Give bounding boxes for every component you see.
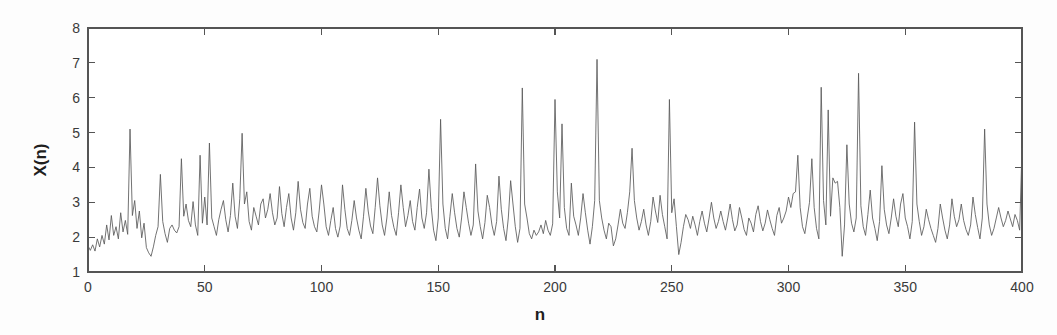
line-chart: 050100150200250300350400 12345678 X(n) n [0,0,1057,335]
x-axis-tick-labels: 050100150200250300350400 [84,279,1034,295]
y-tick-label: 8 [72,20,80,36]
x-tick-label: 200 [543,279,567,295]
y-tick-label: 3 [72,194,80,210]
y-tick-label: 6 [72,90,80,106]
plot-area-background [88,28,1022,272]
x-tick-label: 150 [427,279,451,295]
y-axis-tick-labels: 12345678 [72,20,80,280]
x-tick-label: 50 [197,279,213,295]
y-tick-label: 2 [72,229,80,245]
x-tick-label: 400 [1010,279,1034,295]
x-tick-label: 250 [660,279,684,295]
x-axis-label: n [535,305,545,324]
y-tick-label: 7 [72,55,80,71]
x-tick-label: 350 [894,279,918,295]
x-tick-label: 300 [777,279,801,295]
figure-canvas: 050100150200250300350400 12345678 X(n) n [0,0,1057,335]
x-tick-label: 0 [84,279,92,295]
y-tick-label: 1 [72,264,80,280]
y-tick-label: 4 [72,159,80,175]
y-axis-label: X(n) [31,143,50,176]
x-tick-label: 100 [310,279,334,295]
y-tick-label: 5 [72,125,80,141]
